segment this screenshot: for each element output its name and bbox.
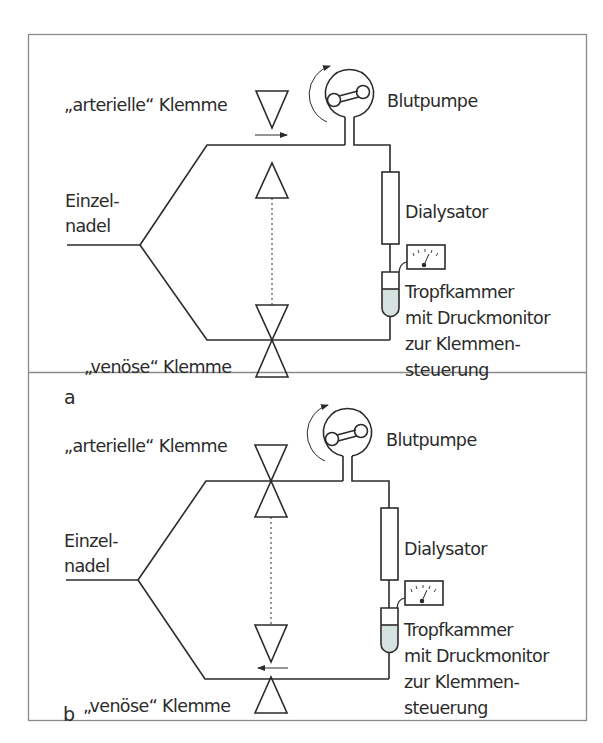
label-venous-clamp-b: „venöse“ Klemme: [83, 696, 230, 716]
blood-pump-icon: [309, 66, 373, 122]
diagram-canvas: „arterielle“ Klemme „venöse“ Klemme Einz…: [0, 0, 603, 743]
venous-clamp-icon: [255, 677, 287, 713]
label-drip-b-2: mit Druckmonitor: [404, 646, 550, 666]
label-drip-a-4: steuerung: [405, 360, 489, 380]
arterial-line: [140, 145, 345, 245]
label-dialyzer-b: Dialysator: [404, 539, 488, 559]
arterial-clamp-icon: [255, 445, 287, 481]
label-drip-a-1: Tropfkammer: [404, 282, 515, 302]
blood-pump-icon: [307, 405, 371, 461]
clamp-jaw-icon: [256, 163, 288, 198]
arterial-clamp-lower-jaw-icon: [255, 481, 287, 517]
label-drip-a-2: mit Druckmonitor: [405, 308, 551, 328]
venous-line: [138, 580, 389, 679]
label-arterial-clamp-b: „arterielle“ Klemme: [64, 436, 227, 456]
rotation-arrow-icon: [307, 405, 328, 461]
label-needle-a-2: nadel: [65, 216, 111, 236]
pump-to-dialyzer-line: [352, 456, 389, 508]
venous-clamp-icon: [256, 340, 288, 377]
label-pump-a: Blutpumpe: [387, 91, 478, 111]
label-drip-b-4: steuerung: [404, 698, 488, 718]
panel-letter-a: a: [64, 386, 76, 408]
label-venous-clamp-a: „venöse“ Klemme: [84, 357, 231, 377]
dialyzer-icon: [382, 172, 399, 244]
label-needle-b-2: nadel: [64, 556, 110, 576]
arterial-clamp-icon: [256, 91, 288, 128]
label-drip-a-3: zur Klemmen-: [405, 334, 520, 354]
arterial-line: [138, 481, 343, 580]
label-needle-a-1: Einzel-: [65, 191, 119, 211]
label-needle-b-1: Einzel-: [64, 531, 118, 551]
drip-chamber-icon: [381, 608, 398, 679]
panel-letter-b: b: [63, 703, 75, 725]
label-arterial-clamp-a: „arterielle“ Klemme: [64, 95, 227, 115]
label-pump-b: Blutpumpe: [386, 430, 477, 450]
pressure-monitor-icon: [397, 581, 443, 608]
drip-chamber-icon: [382, 272, 399, 340]
venous-clamp-upper-jaw-icon: [256, 305, 288, 340]
rotation-arrow-icon: [309, 66, 330, 122]
label-drip-b-1: Tropfkammer: [403, 620, 514, 640]
venous-clamp-upper-jaw-icon: [255, 625, 287, 662]
single-needle-dialysis-figure: „arterielle“ Klemme „venöse“ Klemme Einz…: [0, 0, 603, 743]
figure-frame: [29, 35, 587, 721]
pump-to-dialyzer-line: [354, 117, 390, 172]
pressure-monitor-icon: [399, 245, 445, 272]
dialyzer-icon: [381, 508, 398, 580]
label-drip-b-3: zur Klemmen-: [404, 672, 519, 692]
label-dialyzer-a: Dialysator: [405, 202, 489, 222]
